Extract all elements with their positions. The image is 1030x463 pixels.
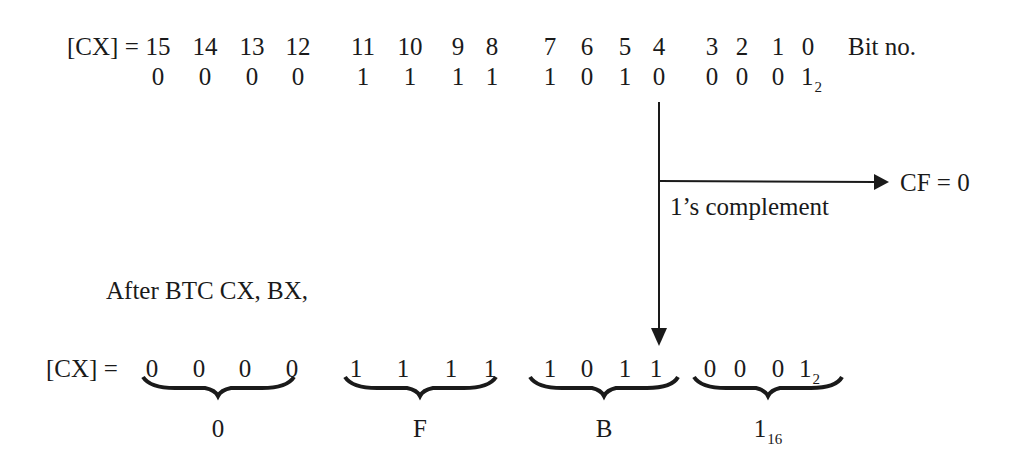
bit-after: 0 [772, 356, 785, 381]
hex-digit: B [596, 416, 613, 441]
hex-digit: F [413, 416, 427, 441]
brace-nibble-2 [345, 377, 496, 396]
bit-after: 1 [544, 356, 557, 381]
bit-after: 12 [799, 356, 820, 387]
bit-after: 1 [650, 356, 663, 381]
bit-after: 0 [704, 356, 717, 381]
bit-after: 0 [286, 356, 299, 381]
carry-flag-label: CF = 0 [900, 170, 970, 195]
horizontal-arrow-line [659, 181, 876, 182]
brace-nibble-3 [143, 377, 294, 396]
hex-digit: 0 [212, 416, 225, 441]
arrow-diagram [0, 0, 1030, 463]
base-subscript: 2 [813, 371, 821, 387]
bit-after: 0 [581, 356, 594, 381]
hex-digit: 116 [754, 416, 783, 447]
bit-after: 0 [734, 356, 747, 381]
bit-after: 0 [239, 356, 252, 381]
bit-after: 1 [397, 356, 410, 381]
bit-after: 0 [193, 356, 206, 381]
bit-after: 1 [445, 356, 458, 381]
complement-label: 1’s complement [670, 194, 829, 219]
down-arrowhead-icon [651, 328, 667, 346]
bit-after: 0 [146, 356, 159, 381]
cx-label-bottom: [CX] = [46, 356, 118, 381]
right-arrowhead-icon [874, 174, 889, 190]
bit-after: 1 [619, 356, 632, 381]
bit-after: 1 [350, 356, 363, 381]
after-caption: After BTC CX, BX, [106, 278, 308, 303]
bit-after: 1 [484, 356, 497, 381]
hex-subscript: 16 [767, 431, 782, 447]
